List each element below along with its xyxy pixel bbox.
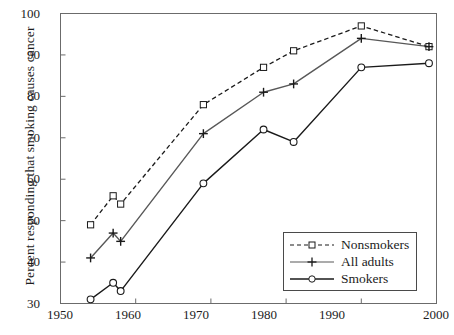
data-point [200, 102, 206, 108]
data-point [87, 296, 94, 303]
data-point [118, 201, 124, 207]
chart-legend: Nonsmokers All adults Smokers [283, 232, 417, 291]
x-tick-label-1990: 1990 [307, 307, 357, 323]
x-tick-label-1980: 1980 [239, 307, 289, 323]
data-point [358, 64, 365, 71]
data-point [291, 48, 297, 54]
data-point [260, 64, 266, 70]
x-tick-label-1960: 1960 [103, 307, 153, 323]
data-point [358, 23, 364, 29]
data-point [260, 126, 267, 133]
legend-swatch-nonsmokers [289, 237, 335, 253]
legend-item-all-adults: All adults [289, 253, 409, 270]
data-point [117, 288, 124, 295]
data-point [87, 222, 93, 228]
data-point [357, 34, 366, 43]
y-tick-label-100: 100 [10, 6, 40, 22]
legend-label-nonsmokers: Nonsmokers [335, 237, 409, 253]
legend-item-nonsmokers: Nonsmokers [289, 236, 409, 253]
data-point [200, 180, 207, 187]
x-tick-label-1950: 1950 [35, 307, 85, 323]
y-tick-label-90: 90 [10, 47, 40, 63]
legend-label-smokers: Smokers [335, 271, 388, 287]
series-all-adults [86, 34, 433, 262]
y-tick-label-60: 60 [10, 171, 40, 187]
y-tick-label-70: 70 [10, 130, 40, 146]
data-point [110, 193, 116, 199]
y-tick-label-80: 80 [10, 88, 40, 104]
series-line [91, 26, 429, 225]
y-tick-label-40: 40 [10, 254, 40, 270]
data-point [110, 279, 117, 286]
legend-swatch-smokers [289, 271, 335, 287]
data-point [289, 80, 298, 89]
data-point [259, 88, 268, 97]
series-nonsmokers [87, 23, 432, 228]
x-tick-label-2000: 2000 [411, 307, 454, 323]
x-tick-label-1970: 1970 [171, 307, 221, 323]
data-point [426, 60, 433, 67]
legend-item-smokers: Smokers [289, 270, 409, 287]
data-point [290, 139, 297, 146]
series-line [91, 38, 429, 258]
legend-swatch-all-adults [289, 254, 335, 270]
chart-figure: Percent responding that smoking causes c… [0, 0, 454, 335]
legend-label-all-adults: All adults [335, 254, 394, 270]
y-tick-label-50: 50 [10, 213, 40, 229]
figure-caption [0, 327, 454, 335]
